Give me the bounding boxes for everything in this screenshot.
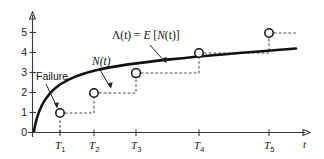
x-tick-label-T2-sub: 2 xyxy=(95,145,99,154)
x-tick-label-T3-sub: 3 xyxy=(137,145,141,154)
x-tick-label-T4: T4 xyxy=(194,140,204,154)
failure-annotation-label: Failure xyxy=(36,71,68,82)
y-tick-label-3: 3 xyxy=(14,67,27,78)
step-riser-T1-T2 xyxy=(65,97,94,113)
nt-leader-line xyxy=(99,68,110,87)
y-tick-label-4: 4 xyxy=(14,47,27,58)
lambda-rhs-n: N xyxy=(157,29,165,41)
x-tick-label-T5-sub: 5 xyxy=(270,145,274,154)
failure-point-4[interactable] xyxy=(195,49,203,57)
step-riser-T2-T3 xyxy=(99,78,136,93)
lambda-leader-line xyxy=(150,45,165,62)
x-axis-title: t xyxy=(303,139,306,150)
failure-point-1[interactable] xyxy=(56,109,64,117)
lambda-annotation-label: Λ(t) = E [N(t)] xyxy=(112,30,180,42)
lambda-rhs-tail: (t)] xyxy=(165,29,180,41)
x-tick-label-T1-sub: 1 xyxy=(61,145,65,154)
x-tick-label-T2: T2 xyxy=(89,140,99,154)
step-function-nt xyxy=(60,33,296,133)
x-axis xyxy=(28,130,310,137)
figure-canvas: 5 4 3 2 1 0 T1 T2 T3 T4 T5 t Failure N(t… xyxy=(0,0,324,159)
nt-annotation-label: N(t) xyxy=(92,56,111,68)
failure-point-5[interactable] xyxy=(265,29,273,37)
failure-point-3[interactable] xyxy=(132,69,141,78)
x-tick-label-T3: T3 xyxy=(131,140,141,154)
failure-point-2[interactable] xyxy=(90,89,98,97)
y-tick-label-5: 5 xyxy=(14,27,27,38)
x-tick-label-T5: T5 xyxy=(264,140,274,154)
y-tick-label-0: 0 xyxy=(14,127,27,138)
x-tick-label-T4-sub: 4 xyxy=(200,145,204,154)
failure-leader-arrowhead xyxy=(54,102,59,109)
y-tick-label-2: 2 xyxy=(14,87,27,98)
y-tick-label-1: 1 xyxy=(14,107,27,118)
lambda-lhs: Λ(t) = xyxy=(112,29,143,41)
x-tick-label-T1: T1 xyxy=(55,140,65,154)
